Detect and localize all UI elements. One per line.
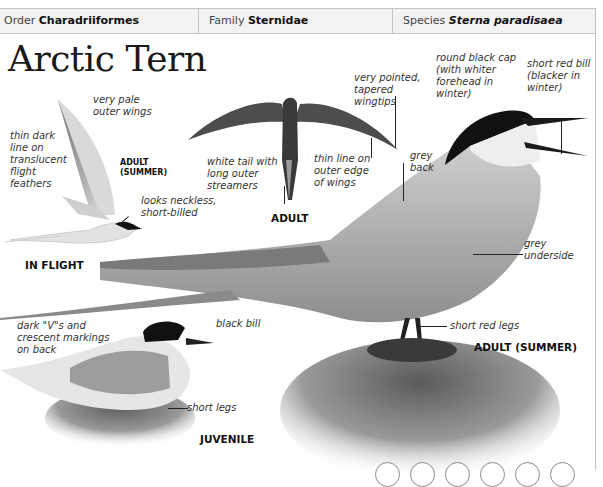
- leader-line: [284, 186, 285, 204]
- in-flight-sub-caption: ADULT (SUMMER): [120, 158, 167, 178]
- note-dark-v-markings: dark "V"s and crescent markings on back: [17, 320, 110, 356]
- adult-flying-caption: ADULT: [271, 212, 308, 224]
- note-short-red-legs: short red legs: [450, 320, 519, 332]
- note-black-cap: round black cap (with whiter forehead in…: [436, 52, 516, 100]
- note-thin-line-outer-edge: thin line on outer edge of wings: [314, 153, 370, 189]
- page-navigation-circles: [375, 462, 575, 487]
- nav-circle[interactable]: [410, 462, 435, 487]
- nav-circle[interactable]: [375, 462, 400, 487]
- note-grey-back: grey back: [410, 150, 434, 174]
- note-thin-dark-line: thin dark line on translucent flight fea…: [10, 130, 67, 190]
- leader-line: [371, 138, 372, 158]
- leader-line: [403, 163, 404, 201]
- leader-line: [168, 408, 188, 409]
- note-white-tail: white tail with long outer streamers: [207, 156, 278, 192]
- note-short-red-bill: short red bill (blacker in winter): [527, 58, 590, 94]
- note-black-bill: black bill: [216, 318, 260, 330]
- nav-circle[interactable]: [445, 462, 470, 487]
- note-looks-neckless: looks neckless, short-billed: [141, 195, 217, 219]
- leader-line: [473, 254, 523, 255]
- note-pointed-wingtips: very pointed, tapered wingtips: [354, 72, 420, 108]
- note-short-legs: short legs: [187, 402, 236, 414]
- note-grey-underside: grey underside: [524, 238, 574, 262]
- nav-circle[interactable]: [515, 462, 540, 487]
- nav-circle[interactable]: [550, 462, 575, 487]
- juvenile-caption: JUVENILE: [200, 433, 254, 445]
- in-flight-caption: IN FLIGHT: [25, 259, 84, 271]
- leader-line: [561, 120, 562, 154]
- note-pale-outer-wings: very pale outer wings: [93, 94, 152, 118]
- nav-circle[interactable]: [480, 462, 505, 487]
- leader-line: [419, 326, 447, 327]
- adult-summer-caption: ADULT (SUMMER): [474, 341, 577, 353]
